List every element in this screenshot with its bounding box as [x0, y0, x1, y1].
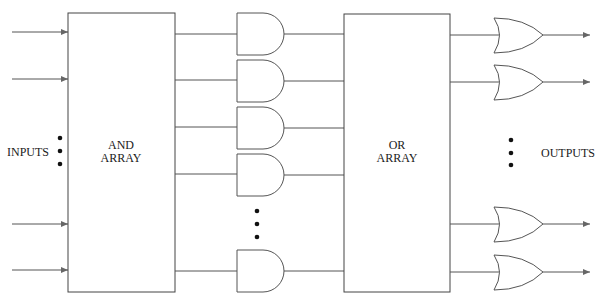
and-gate-icon [237, 13, 284, 55]
and-array-label-line2: ARRAY [101, 151, 142, 165]
or-gate [450, 65, 590, 100]
or-gate [450, 255, 590, 290]
or-gate [450, 18, 590, 53]
or-gate-icon [494, 65, 543, 100]
or-array-label-line1: OR [389, 138, 406, 152]
and-array-label-line1: AND [108, 138, 134, 152]
and-gate [175, 13, 344, 55]
pla-diagram: INPUTS AND ARRAY [0, 0, 600, 305]
and-gates [175, 13, 344, 292]
or-gate-icon [494, 18, 543, 53]
and-gate [175, 60, 344, 102]
or-gate-icon [494, 255, 543, 290]
or-array-label-line2: ARRAY [377, 151, 418, 165]
and-gate [175, 154, 344, 196]
and-gate [175, 107, 344, 149]
and-gate-icon [237, 60, 284, 102]
outputs-label: OUTPUTS [541, 146, 595, 160]
and-gate-icon [237, 107, 284, 149]
and-gates-ellipsis [255, 209, 260, 240]
and-gate-icon [237, 154, 284, 196]
outputs-ellipsis [509, 138, 514, 168]
or-gate-icon [494, 207, 543, 242]
and-gate-icon [237, 250, 284, 292]
or-gate [450, 207, 590, 242]
and-gate [175, 250, 344, 292]
inputs-ellipsis [58, 136, 63, 167]
inputs-label: INPUTS [7, 145, 49, 159]
